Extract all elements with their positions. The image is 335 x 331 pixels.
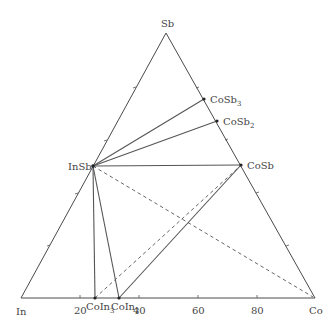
point-coin2 — [117, 296, 120, 299]
phase-label-insb: InSb — [68, 161, 92, 172]
point-cosb — [239, 163, 242, 166]
dashed-tie-insb-co — [93, 166, 313, 297]
vertex-label-sb: Sb — [161, 18, 174, 29]
dashed-tie-coin3-cosb — [95, 168, 238, 298]
tie-coin2-cosb — [119, 165, 241, 298]
axis-tick-80: 80 — [251, 305, 264, 316]
ternary-diagram: Sb In Co 20 40 60 80 InSb CoSb3 CoSb2 Co… — [0, 0, 335, 331]
tie-insb-cosb3 — [93, 99, 204, 166]
vertex-label-in: In — [16, 306, 27, 317]
tie-insb-cosb2 — [93, 121, 217, 166]
tie-insb-cosb — [93, 165, 241, 166]
vertex-label-co: Co — [309, 305, 323, 316]
axis-tick-60: 60 — [192, 305, 205, 316]
point-cosb2 — [215, 119, 218, 122]
point-cosb3 — [202, 97, 205, 100]
point-insb — [91, 164, 95, 168]
tie-insb-coin3 — [93, 166, 95, 298]
point-coin3 — [93, 296, 96, 299]
axis-tick-20: 20 — [74, 305, 87, 316]
phase-label-cosb3: CoSb3 — [210, 94, 241, 108]
phase-label-cosb: CoSb — [247, 160, 274, 171]
tie-insb-coin2 — [93, 166, 119, 298]
phase-label-coin2: CoIn2 — [111, 301, 140, 315]
phase-label-cosb2: CoSb2 — [223, 116, 254, 130]
